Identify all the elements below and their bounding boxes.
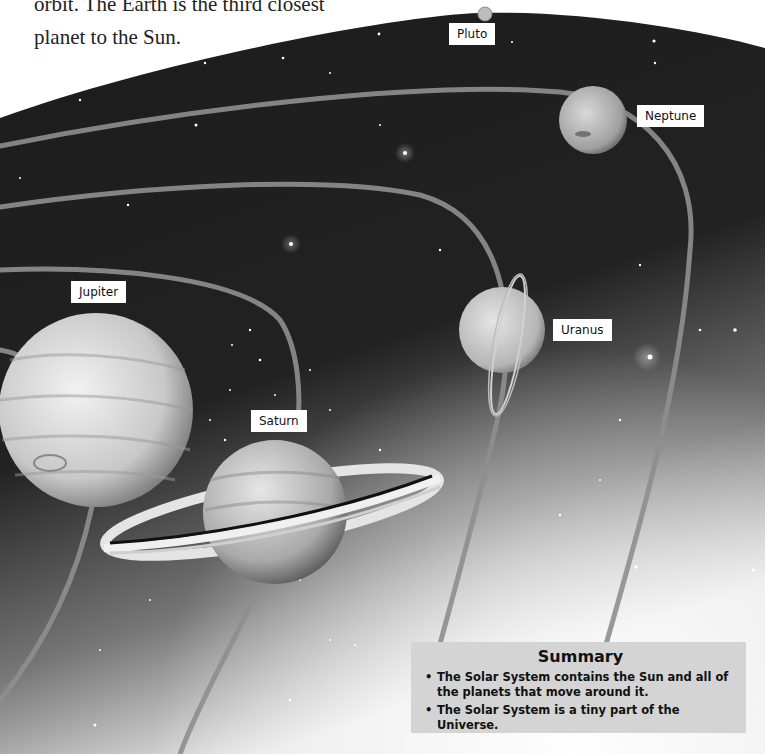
label-jupiter: Jupiter bbox=[71, 281, 126, 303]
summary-list: •The Solar System contains the Sun and a… bbox=[425, 670, 736, 733]
summary-item: •The Solar System contains the Sun and a… bbox=[425, 670, 736, 700]
planet-neptune bbox=[559, 86, 627, 154]
summary-box: Summary •The Solar System contains the S… bbox=[411, 642, 746, 733]
planet-pluto bbox=[478, 7, 492, 21]
planet-jupiter bbox=[0, 313, 193, 507]
bullet-icon: • bbox=[425, 670, 437, 685]
label-neptune: Neptune bbox=[637, 105, 704, 127]
label-saturn: Saturn bbox=[251, 410, 307, 432]
summary-title: Summary bbox=[425, 646, 736, 668]
bullet-icon: • bbox=[425, 703, 437, 718]
label-uranus: Uranus bbox=[553, 319, 612, 341]
label-pluto: Pluto bbox=[449, 23, 495, 45]
summary-item: •The Solar System is a tiny part of the … bbox=[425, 703, 736, 733]
